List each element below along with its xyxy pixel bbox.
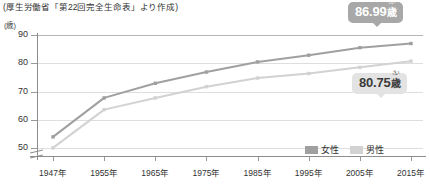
callout-female-number: 86.99 xyxy=(355,4,387,19)
x-axis-tick-label: 2015年 xyxy=(397,166,425,178)
x-axis-tick xyxy=(411,157,412,161)
data-series-layer xyxy=(0,0,430,190)
callout-female-unit-text: 歳 xyxy=(387,7,397,18)
data-point-marker xyxy=(154,82,157,85)
legend-entry-男性[interactable]: 男性 xyxy=(350,143,384,156)
legend-label: 男性 xyxy=(366,143,384,156)
source-note: (厚生労働省「第22回完全生命表」より作成) xyxy=(3,2,178,13)
x-axis-tick-label: 1985年 xyxy=(244,166,272,178)
data-point-marker xyxy=(154,96,157,99)
legend-swatch xyxy=(350,146,363,154)
data-point-marker xyxy=(307,54,310,57)
legend-entry-女性[interactable]: 女性 xyxy=(305,143,339,156)
x-axis-tick-label: 1995年 xyxy=(295,166,323,178)
x-axis-tick xyxy=(258,157,259,161)
x-axis-tick-label: 1955年 xyxy=(90,166,118,178)
data-point-marker xyxy=(205,85,208,88)
x-axis-tick-label: 1947年 xyxy=(39,166,67,178)
y-axis-tick xyxy=(31,120,37,121)
callout-male-value: 80.75さい歳 xyxy=(352,73,407,94)
callout-female-unit: さい歳 xyxy=(387,5,397,20)
y-axis-tick xyxy=(31,35,37,36)
callout-male-unit: さい歳 xyxy=(391,76,401,91)
y-axis-tick-label: 80 xyxy=(2,57,28,67)
y-axis-tick xyxy=(31,148,37,149)
x-axis-tick xyxy=(309,157,310,161)
data-point-marker xyxy=(51,135,54,138)
callout-female-value: 86.99さい歳 xyxy=(348,2,403,23)
data-point-marker xyxy=(307,72,310,75)
y-axis-tick-label: 90 xyxy=(2,29,28,39)
data-point-marker xyxy=(256,76,259,79)
x-axis-line xyxy=(30,156,426,157)
legend-label: 女性 xyxy=(321,143,339,156)
x-axis-tick xyxy=(206,157,207,161)
plot-top-border xyxy=(38,35,423,36)
callout-tail xyxy=(376,93,386,98)
data-point-marker xyxy=(358,66,361,69)
x-axis-tick-label: 1965年 xyxy=(141,166,169,178)
life-expectancy-chart: (厚生労働省「第22回完全生命表」より作成) (歳) 9080706050 19… xyxy=(0,0,430,190)
x-axis-tick xyxy=(360,157,361,161)
axis-break-icon xyxy=(30,148,44,162)
y-axis-tick-label: 50 xyxy=(2,142,28,152)
x-axis-tick xyxy=(155,157,156,161)
data-point-marker xyxy=(102,108,105,111)
data-point-marker xyxy=(102,96,105,99)
legend-swatch xyxy=(305,146,318,154)
callout-male-ruby: さい xyxy=(392,70,400,75)
data-point-marker xyxy=(358,46,361,49)
data-point-marker xyxy=(409,42,412,45)
callout-male-number: 80.75 xyxy=(359,75,391,90)
callout-tail xyxy=(372,22,382,27)
y-axis-line xyxy=(37,33,38,160)
y-axis-tick-label: 60 xyxy=(2,114,28,124)
x-axis-tick-label: 2005年 xyxy=(346,166,374,178)
callout-male-unit-text: 歳 xyxy=(391,78,401,89)
y-axis-tick-label: 70 xyxy=(2,86,28,96)
data-point-marker xyxy=(205,70,208,73)
x-axis-tick xyxy=(104,157,105,161)
chart-legend: 女性男性 xyxy=(305,143,390,156)
y-axis-tick xyxy=(31,92,37,93)
x-axis-tick xyxy=(53,157,54,161)
x-axis-tick-label: 1975年 xyxy=(192,166,220,178)
y-axis-tick xyxy=(31,63,37,64)
gridline xyxy=(38,63,423,64)
callout-female-ruby: さい xyxy=(388,0,396,4)
gridline xyxy=(38,120,423,121)
